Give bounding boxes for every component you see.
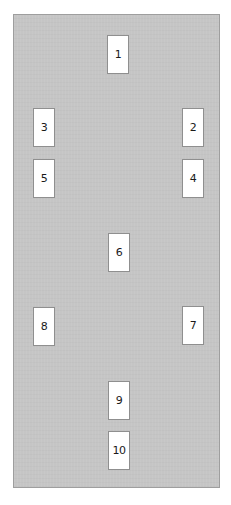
card-number-label: 5 <box>41 173 48 184</box>
card-position-4[interactable]: 4 <box>182 159 204 198</box>
card-number-label: 10 <box>113 445 126 456</box>
card-position-2[interactable]: 2 <box>182 108 204 147</box>
card-number-label: 2 <box>190 122 197 133</box>
card-number-label: 8 <box>41 321 48 332</box>
card-position-5[interactable]: 5 <box>33 159 55 198</box>
card-position-1[interactable]: 1 <box>107 35 129 74</box>
card-number-label: 9 <box>116 395 123 406</box>
card-position-8[interactable]: 8 <box>33 307 55 346</box>
card-position-10[interactable]: 10 <box>108 431 130 470</box>
card-number-label: 4 <box>190 173 197 184</box>
card-number-label: 6 <box>116 247 123 258</box>
card-number-label: 3 <box>41 122 48 133</box>
spread-layout-panel: 1 2 3 4 5 6 7 8 9 10 <box>13 14 220 488</box>
card-position-7[interactable]: 7 <box>182 306 204 345</box>
card-number-label: 7 <box>190 320 197 331</box>
card-position-9[interactable]: 9 <box>108 381 130 420</box>
card-position-6[interactable]: 6 <box>108 233 130 272</box>
card-position-3[interactable]: 3 <box>33 108 55 147</box>
card-number-label: 1 <box>115 49 122 60</box>
